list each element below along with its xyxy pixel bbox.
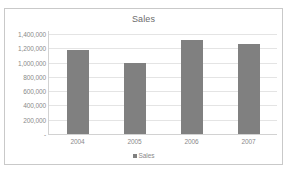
- y-axis-tick-label: 1,200,000: [4, 45, 46, 52]
- cut-off-text-remnant: ··: [0, 0, 288, 8]
- y-axis-tick-label: -: [4, 131, 46, 138]
- y-axis-tick-label: 800,000: [4, 73, 46, 80]
- bar[interactable]: [124, 63, 146, 134]
- legend-label-sales: Sales: [139, 152, 155, 159]
- x-axis-tick-label: 2007: [241, 138, 255, 145]
- bar[interactable]: [238, 44, 260, 134]
- y-axis-tick-label: 600,000: [4, 88, 46, 95]
- y-axis-tick-label: 1,400,000: [4, 31, 46, 38]
- y-axis-tick-label: 200,000: [4, 116, 46, 123]
- y-axis-tick-labels: 1,400,0001,200,0001,000,000800,000600,00…: [5, 34, 46, 134]
- chart-legend[interactable]: Sales: [5, 152, 282, 159]
- bar[interactable]: [181, 40, 203, 134]
- gridline: [49, 34, 277, 35]
- chart-container[interactable]: Sales 1,400,0001,200,0001,000,000800,000…: [4, 8, 283, 165]
- x-axis-tick-label: 2004: [70, 138, 84, 145]
- bar[interactable]: [67, 50, 89, 134]
- x-axis-tick-label: 2006: [184, 138, 198, 145]
- y-axis-tick-label: 1,000,000: [4, 59, 46, 66]
- cut-off-text: ··: [141, 0, 146, 2]
- gridline: [49, 134, 277, 135]
- x-axis-tick-labels: 2004200520062007: [49, 138, 277, 150]
- x-axis-tick-label: 2005: [127, 138, 141, 145]
- legend-swatch-sales: [133, 154, 137, 158]
- y-axis-tick-label: 400,000: [4, 102, 46, 109]
- plot-area: [49, 34, 277, 134]
- chart-title: Sales: [5, 14, 282, 24]
